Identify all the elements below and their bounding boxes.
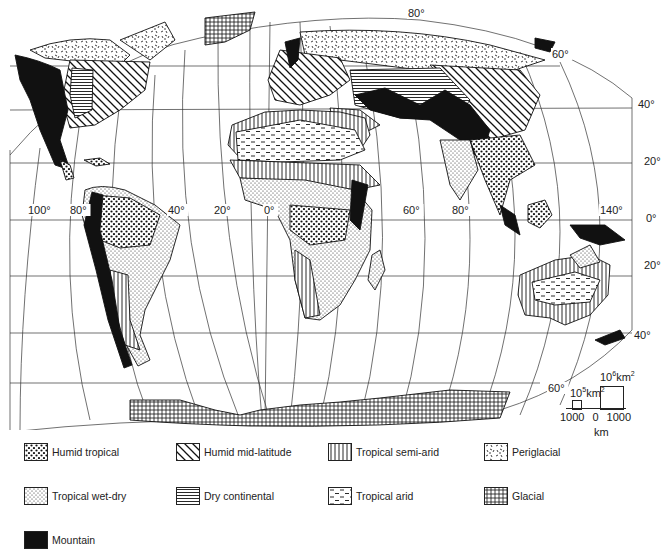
mountain-swatch: [24, 531, 48, 549]
longitude-label: 60°: [403, 204, 420, 216]
south-america: [82, 187, 180, 369]
legend: Humid tropical Humid mid-latitude Tropic…: [0, 430, 669, 542]
legend-item-mountain: Mountain: [24, 530, 95, 550]
scale-bar: [566, 408, 626, 409]
legend-item-periglacial: Periglacial: [484, 442, 560, 462]
longitude-label: 80°: [70, 204, 87, 216]
north-america: [15, 12, 255, 180]
scale-ticks: 100001000: [560, 411, 650, 423]
legend-item-glacial: Glacial: [484, 486, 544, 506]
area-scale: 106km2 105km2 100001000 km: [560, 368, 660, 438]
longitude-label: 140°: [600, 204, 623, 216]
longitude-label: 40°: [168, 204, 185, 216]
dry-continental-swatch: [176, 487, 200, 505]
latitude-label: 80°: [408, 7, 425, 19]
tropical-wet-dry-swatch: [24, 487, 48, 505]
legend-item-humid-mid-latitude: Humid mid-latitude: [176, 442, 292, 462]
latitude-label: 40°: [634, 329, 651, 341]
latitude-label: 60°: [552, 48, 569, 60]
legend-item-humid-tropical: Humid tropical: [24, 442, 119, 462]
world-zone-map: 100°80°40°20°0°60°80°140° 80°60°40°20°0°…: [0, 0, 669, 430]
periglacial-swatch: [484, 443, 508, 461]
latitude-label: 20°: [644, 259, 661, 271]
longitude-label: 80°: [452, 204, 469, 216]
legend-item-dry-continental: Dry continental: [176, 486, 274, 506]
longitude-label: 100°: [28, 204, 51, 216]
humid-tropical-swatch: [24, 443, 48, 461]
glacial-swatch: [484, 487, 508, 505]
longitude-label: 0°: [264, 204, 275, 216]
latitude-label: 20°: [644, 155, 661, 167]
large-box-label: 106km2: [600, 370, 635, 383]
large-area-box: [600, 386, 624, 410]
australia: [518, 245, 625, 345]
latitude-label: 40°: [638, 98, 655, 110]
legend-item-tropical-arid: Tropical arid: [328, 486, 413, 506]
legend-item-tropical-wet-dry: Tropical wet-dry: [24, 486, 126, 506]
tropical-semi-arid-swatch: [328, 443, 352, 461]
legend-item-tropical-semi-arid: Tropical semi-arid: [328, 442, 439, 462]
longitude-label: 20°: [214, 204, 231, 216]
tropical-arid-swatch: [328, 487, 352, 505]
humid-mid-latitude-swatch: [176, 443, 200, 461]
antarctica: [130, 390, 510, 426]
latitude-label: 0°: [646, 212, 657, 224]
